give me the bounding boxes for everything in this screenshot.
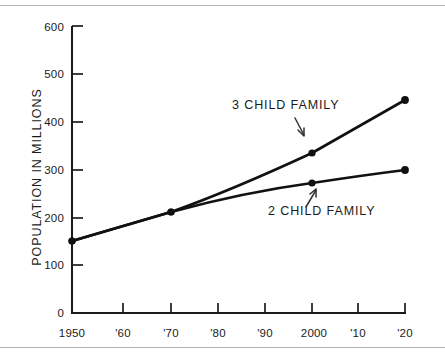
down-right-arrow-icon — [295, 118, 304, 136]
series-line-2-child-family — [68, 166, 409, 244]
data-point-3child-2000 — [308, 149, 315, 156]
data-point-2child-1950 — [68, 237, 75, 244]
plot-area — [0, 0, 445, 363]
data-point-2child-2020 — [401, 166, 409, 174]
data-point-2child-1970 — [167, 208, 174, 215]
data-point-2child-2000 — [308, 179, 315, 186]
axis-lines — [71, 26, 406, 313]
x-axis-ticks — [123, 303, 405, 313]
y-axis-ticks — [72, 26, 83, 265]
chart-figure: POPULATION IN MILLIONS 0 100 200 300 400… — [0, 0, 445, 363]
up-right-arrow-icon — [306, 189, 316, 207]
series-line-3-child-family — [68, 96, 409, 245]
data-point-3child-2020 — [401, 96, 409, 104]
